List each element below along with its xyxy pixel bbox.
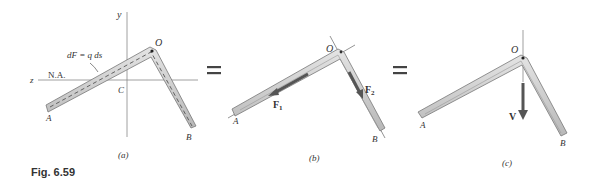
panel-b: O A B F1 F2 (b) (228, 36, 385, 163)
panel-c-caption: (c) (502, 158, 512, 168)
corner-o-label: O (155, 37, 162, 48)
corner-o-label-c: O (511, 44, 518, 55)
point-o-dot-c (521, 56, 524, 59)
corner-o-label-b: O (326, 43, 333, 54)
end-b-label-b: B (372, 134, 378, 144)
neutral-axis-label: N.A. (48, 70, 66, 80)
end-a-label: A (45, 113, 52, 123)
dF-label: dF = q ds (67, 50, 103, 60)
angle-member-c (418, 55, 567, 136)
panel-c: O A B V (c) (418, 30, 567, 168)
shear-force-v-arrow (518, 83, 528, 120)
end-b-label-c: B (560, 138, 566, 148)
end-a-label-c: A (419, 120, 426, 130)
f1-label: F1 (273, 99, 283, 112)
panel-b-caption: (b) (309, 153, 320, 163)
end-a-label-b: A (232, 116, 239, 126)
panel-a-caption: (a) (118, 150, 129, 160)
point-o-dot-b (340, 51, 343, 54)
figure-caption: Fig. 6.59 (31, 166, 75, 178)
y-axis-label: y (116, 9, 122, 20)
diagram-canvas: y z N.A. dF = q ds C O A B (a) O A B (0, 0, 596, 182)
panel-a: y z N.A. dF = q ds C O A B (a) (29, 9, 198, 160)
end-b-label: B (186, 132, 192, 142)
z-axis-label: z (29, 75, 34, 85)
equals-sign-1 (207, 66, 221, 74)
equals-sign-2 (393, 66, 407, 74)
v-label: V (509, 111, 517, 122)
dF-leader (90, 63, 98, 72)
centroid-label: C (118, 85, 125, 95)
point-o-dot (150, 49, 153, 52)
